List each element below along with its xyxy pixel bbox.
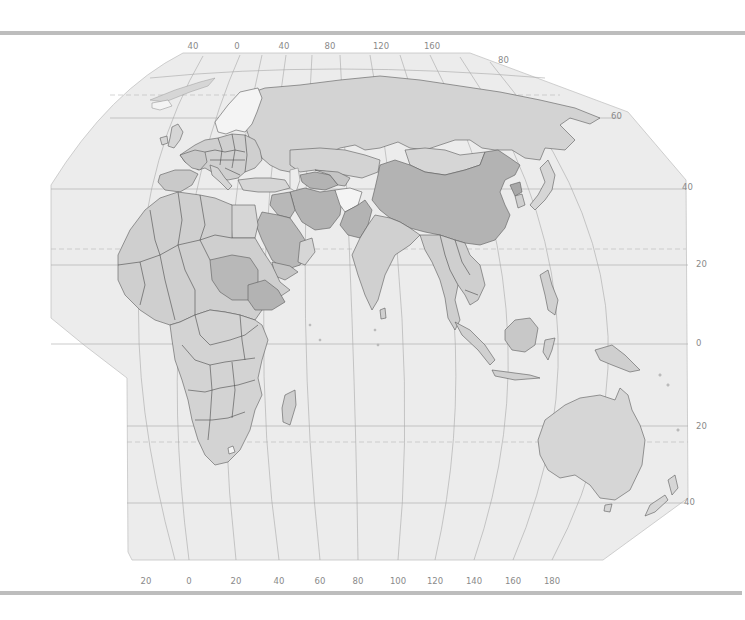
right-lat-label: 20 — [696, 421, 707, 431]
right-lat-label: 40 — [684, 497, 695, 507]
bottom-lon-label: 160 — [505, 576, 521, 586]
top-lon-label: 80 — [325, 41, 336, 51]
bottom-lon-label: 20 — [231, 576, 242, 586]
country-turkey — [238, 178, 290, 192]
bottom-lon-label: 40 — [274, 576, 285, 586]
top-lon-label: 120 — [373, 41, 389, 51]
bottom-lon-label: 60 — [315, 576, 326, 586]
bottom-lon-label: 180 — [544, 576, 560, 586]
country-egypt — [230, 205, 258, 238]
top-lon-label: 160 — [424, 41, 440, 51]
bottom-lon-label: 140 — [466, 576, 482, 586]
bottom-lon-label: 100 — [390, 576, 406, 586]
bottom-lon-label: 0 — [186, 576, 191, 586]
bottom-lon-label: 20 — [141, 576, 152, 586]
right-lat-label: 40 — [682, 182, 693, 192]
top-lon-label: 40 — [279, 41, 290, 51]
right-lat-label: 0 — [696, 338, 701, 348]
bottom-lon-label: 120 — [427, 576, 443, 586]
bottom-lon-label: 80 — [353, 576, 364, 586]
right-lat-label: 80 — [498, 55, 509, 65]
top-lon-label: 40 — [188, 41, 199, 51]
right-lat-label: 20 — [696, 259, 707, 269]
country-sri-lanka — [380, 308, 386, 319]
top-lon-label: 0 — [234, 41, 239, 51]
right-lat-label: 60 — [611, 111, 622, 121]
map-canvas — [0, 0, 745, 620]
